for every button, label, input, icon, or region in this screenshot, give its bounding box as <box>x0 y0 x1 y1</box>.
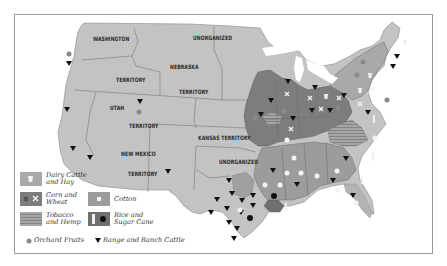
label-kansas-territory: KANSAS TERRITORY <box>198 134 251 141</box>
legend-label-orchard: Orchard Fruits <box>34 237 84 244</box>
legend-item-dairy: Dairy Cattle and Hay <box>42 172 87 186</box>
legend-label-dairy: Dairy Cattle and Hay <box>46 172 87 186</box>
label-unorganized-north: UNORGANIZED <box>193 34 232 41</box>
region-cotton <box>254 142 356 202</box>
legend-item-orchard: Orchard Fruits <box>30 237 84 244</box>
legend-item-cattle: Range and Ranch Cattle <box>99 237 185 244</box>
legend-label-tobacco: Tobacco and Hemp <box>46 212 81 226</box>
label-new-mexico: NEW MEXICO <box>121 150 156 157</box>
legend-label-corn: Corn and Wheat <box>46 192 77 206</box>
legend-item-corn: Corn and Wheat <box>42 192 77 206</box>
legend-label-cattle: Range and Ranch Cattle <box>103 237 185 244</box>
label-new-mexico-territory: TERRITORY <box>128 170 157 177</box>
label-nebraska: NEBRASKA <box>170 63 199 70</box>
label-washington-territory: TERRITORY <box>116 76 145 83</box>
label-nebraska-territory: TERRITORY <box>179 88 208 95</box>
label-utah: UTAH <box>110 104 124 111</box>
label-utah-territory: TERRITORY <box>129 122 158 129</box>
legend-item-tobacco: Tobacco and Hemp <box>42 212 81 226</box>
legend-item-rice: Rice and Sugar Cane <box>110 212 153 226</box>
legend-item-cotton: Cotton <box>110 196 137 203</box>
label-washington: WASHINGTON <box>93 35 129 42</box>
label-unorganized-south: UNORGANIZED <box>219 158 258 165</box>
legend-label-cotton: Cotton <box>114 196 137 203</box>
legend-label-rice: Rice and Sugar Cane <box>114 212 153 226</box>
